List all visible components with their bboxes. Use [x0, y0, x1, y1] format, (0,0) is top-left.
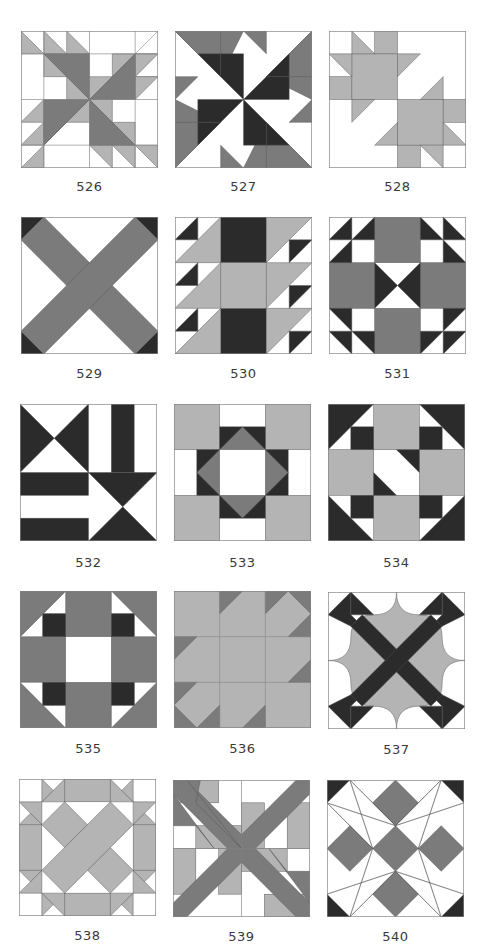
quilt-block-538	[19, 779, 156, 916]
block-number-label: 538	[19, 928, 156, 943]
quilt-block-534	[328, 404, 465, 541]
quilt-block-537	[328, 592, 465, 729]
block-number-label: 535	[20, 741, 157, 756]
quilt-block-533	[174, 404, 311, 541]
block-number-label: 540	[327, 929, 464, 944]
block-number-label: 532	[20, 555, 157, 570]
block-number-label: 526	[21, 179, 158, 194]
block-number-label: 528	[329, 179, 466, 194]
quilt-block-528	[329, 31, 466, 168]
quilt-block-539	[173, 780, 310, 917]
quilt-block-535	[20, 591, 157, 728]
block-number-label: 527	[175, 179, 312, 194]
block-number-label: 530	[175, 366, 312, 381]
block-number-label: 536	[174, 741, 311, 756]
quilt-block-531	[329, 217, 466, 354]
quilt-block-532	[20, 404, 157, 541]
quilt-block-527	[175, 31, 312, 168]
block-number-label: 533	[174, 555, 311, 570]
block-number-label: 529	[21, 366, 158, 381]
quilt-block-536	[174, 591, 311, 728]
block-number-label: 537	[328, 742, 465, 757]
quilt-block-529	[21, 217, 158, 354]
block-number-label: 539	[173, 929, 310, 944]
quilt-block-530	[175, 217, 312, 354]
block-number-label: 531	[329, 366, 466, 381]
block-number-label: 534	[328, 555, 465, 570]
quilt-block-540	[327, 780, 464, 917]
quilt-block-526	[21, 31, 158, 168]
